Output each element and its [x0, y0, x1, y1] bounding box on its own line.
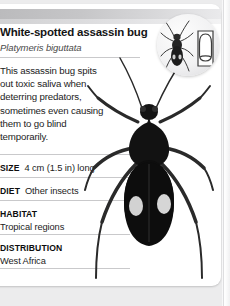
- page-edge-line: [223, 0, 224, 306]
- fact-label-size: SIZE: [0, 163, 20, 173]
- size-comparison-icon: [157, 14, 219, 76]
- fact-value-diet: Other insects: [25, 186, 78, 196]
- fact-card-page: White-spotted assassin bug Platymeris bi…: [0, 0, 230, 306]
- scientific-name: Platymeris biguttata: [0, 42, 81, 53]
- thumbnail-outline-icon: [198, 31, 213, 66]
- fact-label-habitat: HABITAT: [0, 209, 37, 219]
- species-info-card: White-spotted assassin bug Platymeris bi…: [0, 4, 221, 286]
- assassin-bug-photo: [84, 56, 214, 281]
- assassin-bug-silhouette-icon: [161, 21, 193, 71]
- fact-label-distribution: DISTRIBUTION: [0, 243, 62, 253]
- page-title: White-spotted assassin bug: [0, 26, 175, 39]
- fact-label-diet: DIET: [0, 186, 20, 196]
